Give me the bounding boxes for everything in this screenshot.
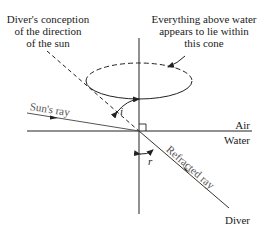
angle-r-arc bbox=[140, 150, 153, 154]
conception-dashed-line bbox=[47, 51, 139, 131]
angle-r-label: r bbox=[148, 155, 152, 167]
right-angle-mark bbox=[139, 124, 146, 131]
diver-label: Diver bbox=[210, 214, 250, 226]
cone-note-label: Everything above water appears to lie wi… bbox=[145, 13, 263, 49]
water-label: Water bbox=[200, 134, 250, 146]
conception-label: Diver's conception of the direction of t… bbox=[2, 13, 94, 49]
cone-note-pointer bbox=[168, 56, 185, 67]
air-label: Air bbox=[210, 119, 250, 131]
angle-i-label: i bbox=[120, 105, 123, 117]
